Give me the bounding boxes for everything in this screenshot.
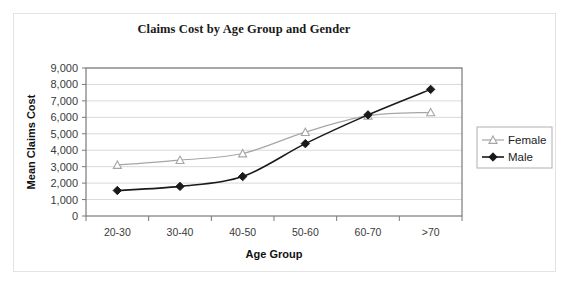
series-male (113, 85, 435, 195)
data-point-marker (301, 139, 309, 147)
x-axis-tick-labels: 20-3030-4040-5050-6060-70>70 (104, 226, 440, 238)
series-line (117, 89, 430, 190)
chart-plot: 01,0002,0003,0004,0005,0006,0007,0008,00… (14, 14, 557, 273)
y-tick-label: 4,000 (50, 144, 78, 156)
y-tick-label: 2,000 (50, 177, 78, 189)
chart-legend: FemaleMale (477, 127, 552, 168)
data-series-group (113, 85, 435, 195)
legend-label: Male (508, 151, 533, 163)
y-axis-title: Mean Claims Cost (25, 94, 37, 189)
x-tick-label: 50-60 (292, 226, 319, 238)
x-tick-label: 40-50 (229, 226, 256, 238)
x-axis-title: Age Group (246, 248, 303, 260)
y-tick-label: 1,000 (50, 194, 78, 206)
y-tick-label: 3,000 (50, 161, 78, 173)
y-axis-tick-labels: 01,0002,0003,0004,0005,0006,0007,0008,00… (50, 62, 78, 222)
x-tick-marks (86, 216, 462, 221)
x-tick-label: >70 (422, 226, 440, 238)
chart-container: Claims Cost by Age Group and Gender 01,0… (13, 13, 556, 272)
y-tick-label: 8,000 (50, 78, 78, 90)
y-tick-label: 7,000 (50, 95, 78, 107)
x-tick-label: 20-30 (104, 226, 131, 238)
data-point-marker (113, 186, 121, 194)
y-tick-label: 6,000 (50, 111, 78, 123)
y-tick-label: 9,000 (50, 62, 78, 74)
legend-label: Female (508, 134, 546, 146)
gridlines-group (86, 68, 462, 200)
x-tick-label: 30-40 (167, 226, 194, 238)
series-line (117, 112, 430, 165)
y-tick-label: 5,000 (50, 128, 78, 140)
x-tick-label: 60-70 (355, 226, 382, 238)
data-point-marker (238, 172, 246, 180)
plot-axis-frame (86, 68, 462, 216)
data-point-marker (426, 85, 434, 93)
y-tick-label: 0 (72, 210, 78, 222)
